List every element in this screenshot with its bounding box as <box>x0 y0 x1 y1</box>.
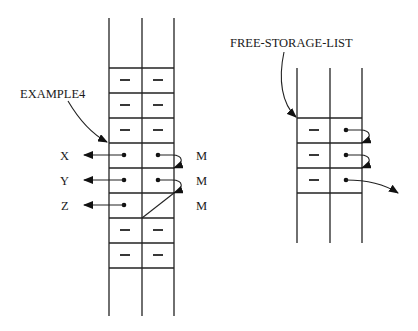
label-m-1: M <box>196 149 207 163</box>
label-y: Y <box>60 174 69 188</box>
memory-diagram: EXAMPLE4 X Y Z M M M FRE <box>0 0 418 331</box>
free-list-pointers <box>344 128 398 193</box>
free-cell-marks <box>309 130 319 180</box>
label-z: Z <box>61 199 69 213</box>
left-memory-block: EXAMPLE4 X Y Z M M M <box>20 18 207 316</box>
label-x: X <box>60 149 69 163</box>
label-m-2: M <box>196 174 207 188</box>
label-free-storage-list: FREE-STORAGE-LIST <box>230 36 353 50</box>
label-m-3: M <box>196 199 207 213</box>
car-pointers <box>84 153 126 208</box>
right-memory-block: FREE-STORAGE-LIST <box>230 36 398 243</box>
cdr-pointers <box>142 153 181 218</box>
label-example4: EXAMPLE4 <box>20 87 86 101</box>
